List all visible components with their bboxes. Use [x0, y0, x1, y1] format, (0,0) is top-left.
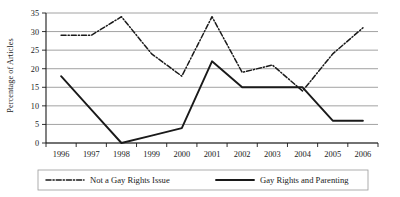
y-tick-label: 35 [31, 9, 39, 18]
y-tick-label: 30 [31, 28, 39, 37]
series-line [61, 17, 363, 91]
x-axis-ticks-group: 1996199719981999200020012002200320042005… [46, 143, 378, 159]
x-tick-label: 2005 [324, 150, 341, 159]
x-tick-label: 1997 [83, 150, 100, 159]
x-tick-label: 2003 [264, 150, 281, 159]
y-tick-label: 5 [35, 120, 39, 129]
y-axis-ticks-group: 05101520253035 [31, 9, 46, 148]
x-tick-label: 2002 [234, 150, 251, 159]
x-tick-label: 1996 [53, 150, 70, 159]
x-tick-label: 2001 [204, 150, 221, 159]
y-tick-label: 15 [31, 83, 39, 92]
legend: Not a Gay Rights IssueGay Rights and Par… [38, 170, 368, 190]
chart-plot: 05101520253035 1996199719981999200020012… [0, 0, 400, 197]
y-tick-label: 0 [35, 139, 39, 148]
x-tick-label: 2004 [294, 150, 312, 159]
y-tick-label: 20 [31, 65, 39, 74]
x-tick-label: 1998 [113, 150, 130, 159]
chart-container: Percentage of Articles 05101520253035 19… [0, 0, 400, 197]
legend-label: Gay Rights and Parenting [260, 175, 349, 185]
x-tick-label: 2006 [355, 150, 372, 159]
x-tick-label: 2000 [173, 150, 190, 159]
legend-label: Not a Gay Rights Issue [90, 175, 170, 185]
y-tick-label: 25 [31, 46, 39, 55]
y-tick-label: 10 [31, 102, 39, 111]
x-tick-label: 1999 [143, 150, 160, 159]
